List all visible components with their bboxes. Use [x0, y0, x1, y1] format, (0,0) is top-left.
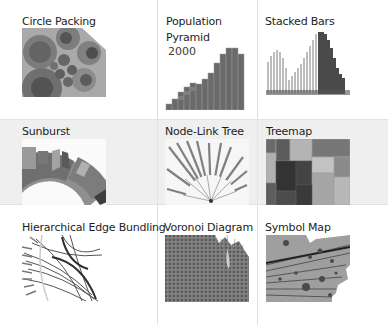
symbol-map-thumbnail [266, 235, 350, 302]
item-title: Voronoi Diagram [164, 221, 253, 234]
gallery-item-stacked-bars[interactable]: Stacked Bars [257, 0, 388, 119]
sunburst-thumbnail [22, 139, 106, 205]
gallery-item-population-pyramid[interactable]: Population Pyramid 2000 [157, 0, 257, 119]
gallery-item-circle-packing[interactable]: Circle Packing [0, 0, 157, 119]
voronoi-thumbnail [165, 235, 249, 302]
item-title: Circle Packing [22, 15, 96, 28]
gallery-item-edge-bundling[interactable]: Hierarchical Edge Bundling [0, 205, 157, 325]
item-title-line2: Pyramid [166, 31, 210, 44]
gallery-item-node-link-tree[interactable]: Node-Link Tree [157, 120, 257, 205]
treemap-thumbnail [266, 139, 350, 205]
item-title: Population [166, 15, 222, 28]
gallery-item-voronoi[interactable]: Voronoi Diagram [157, 205, 257, 325]
gallery-item-treemap[interactable]: Treemap [257, 120, 388, 205]
item-title: Stacked Bars [265, 15, 334, 28]
gallery-item-symbol-map[interactable]: Symbol Map [257, 205, 388, 325]
stacked-bars-thumbnail [266, 30, 350, 96]
item-title: Hierarchical Edge Bundling [22, 221, 166, 234]
node-link-tree-thumbnail [165, 139, 249, 205]
item-title: Sunburst [22, 125, 70, 138]
item-title: Treemap [266, 125, 312, 138]
item-title: Symbol Map [265, 221, 331, 234]
circle-packing-thumbnail [22, 28, 106, 97]
population-pyramid-thumbnail [165, 46, 249, 110]
item-title: Node-Link Tree [165, 125, 244, 138]
gallery-item-sunburst[interactable]: Sunburst [0, 120, 157, 205]
edge-bundling-thumbnail [22, 235, 106, 302]
